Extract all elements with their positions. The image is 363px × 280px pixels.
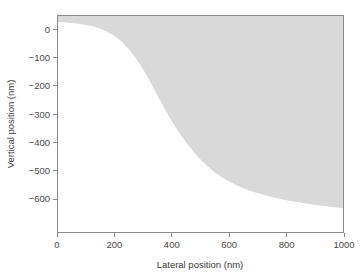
- y-tick-label: −200: [29, 80, 50, 91]
- x-tick-label: 400: [164, 239, 180, 250]
- y-tick-label: −600: [29, 193, 50, 204]
- y-axis-ticks: 0−100−200−300−400−500−600: [29, 24, 57, 205]
- x-tick-label: 200: [106, 239, 122, 250]
- chart-figure: 02004006008001000 0−100−200−300−400−500−…: [0, 0, 363, 280]
- x-tick-label: 800: [279, 239, 295, 250]
- y-tick-label: −300: [29, 109, 50, 120]
- y-tick-label: −100: [29, 52, 50, 63]
- y-tick-label: −400: [29, 137, 50, 148]
- x-tick-label: 600: [221, 239, 237, 250]
- x-axis-title: Lateral position (nm): [157, 259, 244, 270]
- x-axis-ticks: 02004006008001000: [54, 233, 354, 250]
- x-tick-label: 1000: [333, 239, 354, 250]
- y-tick-label: 0: [45, 24, 50, 35]
- chart-svg: 02004006008001000 0−100−200−300−400−500−…: [0, 0, 363, 280]
- y-axis-title: Vertical position (nm): [5, 80, 16, 169]
- x-tick-label: 0: [54, 239, 59, 250]
- y-tick-label: −500: [29, 165, 50, 176]
